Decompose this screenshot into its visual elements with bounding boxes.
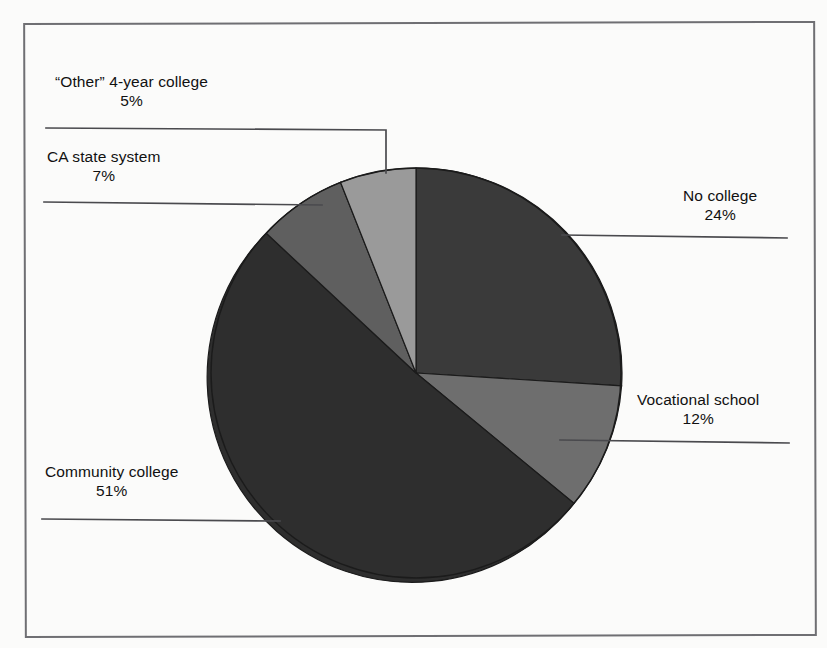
pie-label-no-college-percent: 24% (683, 205, 757, 224)
pie-label-community-college: Community college 51% (45, 462, 179, 500)
pie-slice-no-college[interactable] (416, 168, 622, 386)
pie-label-other-4-year-college-name: “Other” 4-year college (55, 72, 208, 91)
pie-label-community-college-name: Community college (45, 462, 179, 481)
pie-label-community-college-percent: 51% (45, 481, 179, 500)
pie-label-ca-state-system: CA state system 7% (47, 147, 160, 185)
pie-label-no-college-name: No college (683, 186, 757, 205)
pie-label-ca-state-system-name: CA state system (47, 147, 160, 166)
pie-label-no-college: No college 24% (683, 186, 757, 224)
pie-label-vocational-school: Vocational school 12% (637, 390, 759, 428)
pie-label-ca-state-system-percent: 7% (47, 166, 160, 185)
pie-label-vocational-school-percent: 12% (637, 409, 759, 428)
leader-line-community-college (42, 519, 280, 521)
leader-line-no-college (562, 235, 787, 238)
leader-line-ca-state-system (44, 202, 322, 205)
pie-label-other-4-year-college: “Other” 4-year college 5% (55, 72, 208, 110)
pie-label-other-4-year-college-percent: 5% (55, 91, 208, 110)
figure-page: “Other” 4-year college 5% CA state syste… (0, 0, 827, 648)
pie-label-vocational-school-name: Vocational school (637, 390, 759, 409)
